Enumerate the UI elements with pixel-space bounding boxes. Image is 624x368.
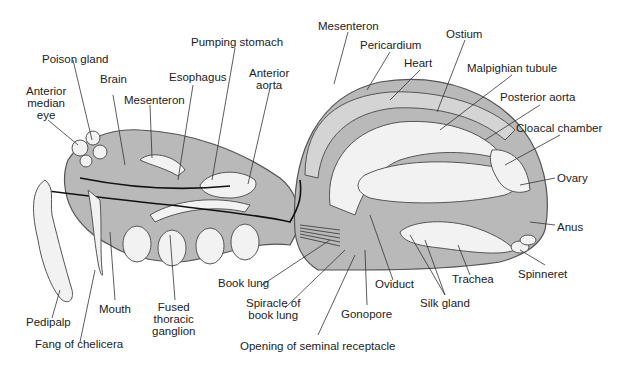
- label-anterior-aorta: Anterior aorta: [249, 67, 289, 91]
- label-opening-seminal-receptacle: Opening of seminal receptacle: [240, 340, 395, 352]
- label-mesenteron-top: Mesenteron: [318, 20, 379, 32]
- label-pericardium: Pericardium: [360, 39, 421, 51]
- label-book-lung: Book lung: [218, 277, 269, 289]
- label-silk-gland: Silk gland: [420, 297, 470, 309]
- label-anus: Anus: [557, 221, 583, 233]
- label-malpighian-tubule: Malpighian tubule: [467, 62, 557, 74]
- label-ovary: Ovary: [557, 172, 588, 184]
- label-gonopore: Gonopore: [341, 308, 392, 320]
- eye-shape: [80, 155, 92, 167]
- label-poison-gland: Poison gland: [42, 53, 109, 65]
- label-cloacal-chamber: Cloacal chamber: [516, 122, 602, 134]
- label-pumping-stomach: Pumping stomach: [191, 36, 283, 48]
- label-fused-thoracic-ganglion: Fused thoracic ganglion: [152, 301, 195, 337]
- label-posterior-aorta: Posterior aorta: [500, 91, 575, 103]
- label-oviduct: Oviduct: [375, 278, 414, 290]
- eye-shape: [86, 131, 100, 145]
- label-mouth: Mouth: [99, 303, 131, 315]
- label-brain: Brain: [100, 73, 127, 85]
- label-esophagus: Esophagus: [169, 71, 227, 83]
- label-mesenteron-front: Mesenteron: [124, 94, 185, 106]
- spinneret-shape: [520, 235, 536, 245]
- eye-shape: [93, 145, 107, 159]
- label-heart: Heart: [404, 57, 432, 69]
- spider-anatomy-diagram: Poison gland Anterior median eye Brain M…: [0, 0, 624, 368]
- label-fang-of-chelicera: Fang of chelicera: [35, 338, 123, 350]
- label-pedipalp: Pedipalp: [26, 316, 71, 328]
- label-trachea: Trachea: [452, 273, 494, 285]
- label-anterior-median-eye: Anterior median eye: [26, 85, 66, 121]
- label-spiracle-book-lung: Spiracle of book lung: [246, 297, 300, 321]
- label-spinneret: Spinneret: [518, 268, 567, 280]
- label-ostium: Ostium: [446, 28, 482, 40]
